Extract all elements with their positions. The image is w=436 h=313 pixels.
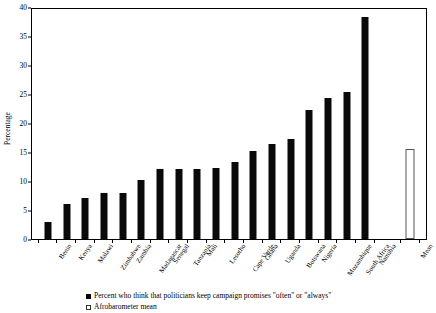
bar-lesotho[interactable] [212, 168, 219, 239]
x-axis-label: Mean [420, 243, 435, 260]
filled-square-icon [86, 294, 91, 299]
bar-slot [169, 9, 188, 239]
bar-madagascar[interactable] [138, 180, 145, 239]
x-axis-label-text: Malawi [97, 243, 115, 265]
y-axis-tick-label: 20 [20, 120, 28, 128]
bar-slot [281, 9, 300, 239]
bar-senegal[interactable] [156, 169, 163, 239]
bar-slot [300, 9, 319, 239]
x-axis-label-text: Uganda [284, 243, 302, 265]
x-axis-label: Benin [58, 243, 73, 261]
bar-slot [76, 9, 95, 239]
bar-slot [319, 9, 338, 239]
bar-namibia[interactable] [362, 17, 369, 239]
bar-slot [188, 9, 207, 239]
y-axis-tick-label: 25 [20, 91, 28, 99]
bar-malawi[interactable] [82, 198, 89, 239]
x-axis-label-text: Kenya [77, 243, 93, 262]
y-axis: 0510152025303540 [0, 8, 31, 240]
bar-slot [244, 9, 263, 239]
bar-kenya[interactable] [63, 204, 70, 239]
bar-south-africa[interactable] [343, 92, 350, 239]
x-axis-label: Malawi [97, 243, 115, 265]
bar-mozambique[interactable] [325, 98, 332, 239]
bar-slot [57, 9, 76, 239]
x-axis-label-text: Benin [58, 243, 73, 261]
legend-item: Percent who think that politicians keep … [86, 291, 386, 301]
bar-ghana[interactable] [250, 151, 257, 239]
bars-layer [32, 9, 426, 239]
x-axis-label: Uganda [284, 243, 302, 265]
legend-label: Percent who think that politicians keep … [94, 292, 331, 300]
bar-slot [356, 9, 375, 239]
bar-nigeria[interactable] [306, 110, 313, 239]
bar-tanzania[interactable] [175, 169, 182, 239]
x-axis-label: Lesotho [229, 243, 248, 265]
bar-slot [263, 9, 282, 239]
legend: Percent who think that politicians keep … [86, 291, 386, 313]
y-axis-tick-label: 40 [20, 4, 28, 12]
bar-mali[interactable] [194, 169, 201, 239]
x-axis-label-text: Mean [420, 243, 435, 260]
x-axis-label-text: Lesotho [229, 243, 248, 265]
bar-slot [113, 9, 132, 239]
bar-mean[interactable] [406, 149, 415, 239]
y-axis-tick-label: 35 [20, 33, 28, 41]
y-axis-tick-label: 10 [20, 178, 28, 186]
bar-slot [39, 9, 58, 239]
bar-slot [132, 9, 151, 239]
x-axis-label: Kenya [77, 243, 93, 262]
y-axis-tick-label: 15 [20, 149, 28, 157]
bar-benin[interactable] [44, 222, 51, 239]
bar-slot [337, 9, 356, 239]
y-axis-tick-label: 0 [23, 236, 27, 244]
bar-slot [225, 9, 244, 239]
bar-botswana[interactable] [287, 139, 294, 239]
chart-title [0, 0, 436, 2]
y-axis-tick-label: 5 [23, 207, 27, 215]
bar-zimbabwe[interactable] [100, 193, 107, 239]
bar-slot [401, 9, 420, 239]
bar-slot [151, 9, 170, 239]
bar-slot [95, 9, 114, 239]
bar-zambia[interactable] [119, 193, 126, 239]
hollow-square-icon [86, 305, 91, 310]
x-axis-labels: BeninKenyaMalawiZimbabweZambiaMadagascar… [31, 243, 427, 291]
bar-cape-verde[interactable] [231, 162, 238, 239]
y-axis-tick-label: 30 [20, 62, 28, 70]
legend-item: Afrobarometer mean [86, 302, 386, 312]
bar-uganda[interactable] [269, 144, 276, 239]
plot-area [31, 8, 427, 240]
bar-slot [207, 9, 226, 239]
legend-label: Afrobarometer mean [94, 303, 157, 311]
